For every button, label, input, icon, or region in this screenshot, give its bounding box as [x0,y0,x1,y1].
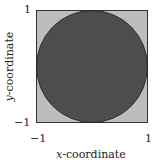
x-axis-label: x-coordinate [56,148,126,161]
y-axis-label: y-coordinate [3,32,16,102]
plot-svg [36,10,148,123]
unit-circle-region [37,11,148,123]
x-tick-right: 1 [145,133,152,144]
x-tick-left: −1 [30,133,46,144]
plot-area [36,10,148,123]
y-tick-bottom: −1 [14,117,30,128]
y-tick-top: 1 [24,4,31,15]
